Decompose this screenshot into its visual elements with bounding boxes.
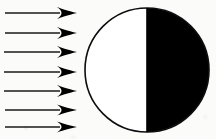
sphere-group: [85, 8, 209, 132]
light-ray: [4, 66, 77, 78]
illumination-diagram: [0, 0, 216, 139]
light-ray: [5, 7, 77, 19]
light-ray: [4, 46, 77, 58]
light-ray: [5, 104, 77, 115]
light-ray: [5, 27, 77, 39]
diagram-canvas: [0, 0, 216, 139]
light-rays-group: [4, 7, 77, 132]
light-ray: [5, 122, 77, 133]
light-ray: [4, 85, 77, 97]
